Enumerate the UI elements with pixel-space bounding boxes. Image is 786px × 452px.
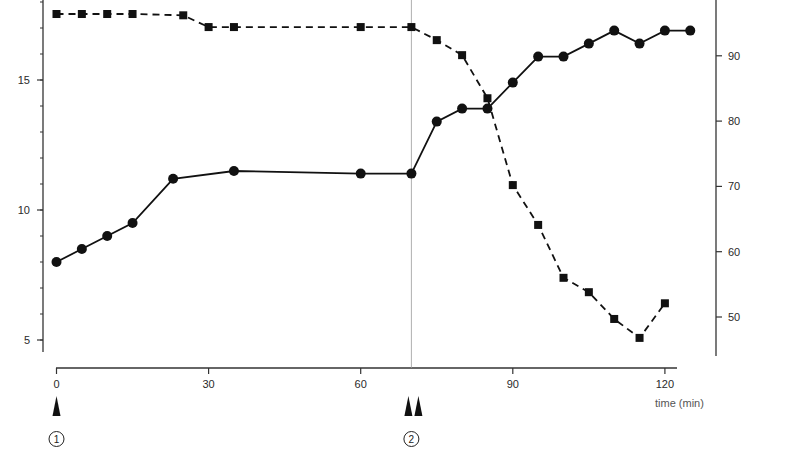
- circle-data-point: [168, 174, 178, 184]
- circle-data-point: [102, 231, 112, 241]
- circle-data-point: [660, 26, 670, 36]
- square-data-point: [53, 10, 61, 18]
- circle-data-point: [635, 39, 645, 49]
- circle-data-point: [482, 104, 492, 114]
- arrowhead-icon: [53, 396, 61, 416]
- square-data-point: [458, 51, 466, 59]
- square-data-point: [205, 23, 213, 31]
- circle-data-point: [609, 26, 619, 36]
- square-data-point: [407, 23, 415, 31]
- square-data-point: [585, 288, 593, 296]
- square-data-point: [636, 334, 644, 342]
- square-data-point: [661, 299, 669, 307]
- circle-data-point: [52, 257, 62, 267]
- square-data-point: [560, 274, 568, 282]
- square-data-point: [103, 10, 111, 18]
- x-tick-label: 120: [656, 378, 674, 390]
- circle-data-point: [559, 52, 569, 62]
- circle-data-point: [128, 218, 138, 228]
- circle-data-point: [229, 166, 239, 176]
- circle-data-point: [685, 26, 695, 36]
- circle-data-point: [533, 52, 543, 62]
- event-number-label: 1: [54, 434, 60, 445]
- circle-data-point: [356, 169, 366, 179]
- right-y-tick-label: 60: [728, 246, 740, 258]
- square-data-point: [509, 181, 517, 189]
- circle-data-point: [406, 169, 416, 179]
- right-y-tick-label: 80: [728, 115, 740, 127]
- right-y-tick-label: 70: [728, 180, 740, 192]
- square-data-point: [483, 94, 491, 102]
- square-data-point: [357, 23, 365, 31]
- event-number-label: 2: [409, 434, 415, 445]
- circle-data-point: [77, 244, 87, 254]
- square-data-point: [230, 23, 238, 31]
- left-y-tick-label: 15: [18, 74, 30, 86]
- x-tick-label: 60: [355, 378, 367, 390]
- solid-line: [57, 31, 691, 262]
- circle-data-point: [508, 78, 518, 88]
- arrowhead-icon: [414, 396, 422, 416]
- circle-data-point: [432, 117, 442, 127]
- circle-data-point: [457, 104, 467, 114]
- x-tick-label: 30: [202, 378, 214, 390]
- left-y-tick-label: 10: [18, 204, 30, 216]
- x-tick-label: 90: [507, 378, 519, 390]
- dual-axis-line-chart: 5101550607080900306090120 12 time (min): [0, 0, 786, 452]
- square-data-point: [179, 11, 187, 19]
- square-data-point: [610, 315, 618, 323]
- left-y-tick-label: 5: [24, 334, 30, 346]
- arrowhead-icon: [404, 396, 412, 416]
- circle-data-point: [584, 39, 594, 49]
- series-circles-solid: [52, 26, 696, 267]
- right-y-tick-label: 50: [728, 311, 740, 323]
- square-data-point: [78, 10, 86, 18]
- right-y-tick-label: 90: [728, 50, 740, 62]
- square-data-point: [129, 10, 137, 18]
- x-tick-label: 0: [53, 378, 59, 390]
- square-data-point: [534, 221, 542, 229]
- x-axis-title: time (min): [655, 397, 704, 409]
- square-data-point: [433, 36, 441, 44]
